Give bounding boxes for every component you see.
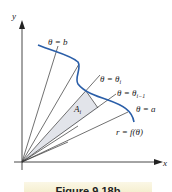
label-theta-i-minus-1: θ = θi−1 — [117, 88, 145, 99]
shaded-sector-Ai — [22, 91, 98, 162]
figure-caption: Figure 9.18b — [24, 185, 152, 192]
x-axis-label: x — [162, 158, 167, 168]
x-axis-arrow-icon — [154, 159, 163, 165]
label-theta-i: θ = θi — [100, 74, 121, 85]
caption-strip: Figure 9.18b — [24, 182, 152, 192]
label-curve-equation: r = f(θ) — [116, 127, 143, 137]
label-theta-a: θ = a — [136, 104, 156, 114]
y-axis-label: y — [11, 11, 16, 21]
ray-theta-im1-ext — [22, 94, 116, 162]
y-axis-arrow-icon — [19, 20, 25, 29]
diagram-canvas: y x θ = b θ = θi θ = θi−1 θ = a r = f(θ)… — [0, 0, 172, 192]
polar-area-figure: y x θ = b θ = θi θ = θi−1 θ = a r = f(θ)… — [0, 0, 172, 192]
label-theta-b: θ = b — [48, 37, 68, 47]
ray-theta-i-ext — [22, 75, 100, 162]
